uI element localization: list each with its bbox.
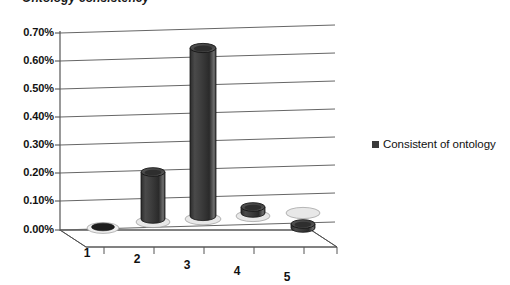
y-tick-label: 0.00%: [2, 223, 54, 235]
legend-swatch-icon: [372, 141, 379, 148]
y-axis-labels: 0.70% 0.60% 0.50% 0.40% 0.30% 0.20% 0.10…: [0, 0, 54, 285]
y-tick-label: 0.20%: [2, 166, 54, 178]
x-tick-label-4: 4: [228, 264, 246, 278]
y-tick-label: 0.10%: [2, 194, 54, 206]
bar-category-4[interactable]: [236, 203, 270, 222]
y-tick-label: 0.60%: [2, 54, 54, 66]
x-tick-label-5: 5: [278, 270, 296, 284]
y-tick-label: 0.50%: [2, 82, 54, 94]
bar-category-3[interactable]: [185, 43, 221, 224]
x-tick-label-3: 3: [178, 258, 196, 272]
legend-label: Consistent of ontology: [383, 138, 496, 150]
x-tick-label-1: 1: [78, 246, 96, 260]
x-tick-label-2: 2: [128, 252, 146, 266]
y-tick-label: 0.70%: [2, 26, 54, 38]
y-tick-label: 0.40%: [2, 110, 54, 122]
bar-category-2[interactable]: [136, 168, 170, 228]
chart-container: Ontology consistency: [0, 0, 510, 285]
bar-category-1[interactable]: [87, 223, 119, 234]
y-axis: [55, 31, 60, 231]
y-tick-label: 0.30%: [2, 138, 54, 150]
chart-legend: Consistent of ontology: [372, 138, 496, 150]
bar-category-5[interactable]: [286, 207, 320, 232]
